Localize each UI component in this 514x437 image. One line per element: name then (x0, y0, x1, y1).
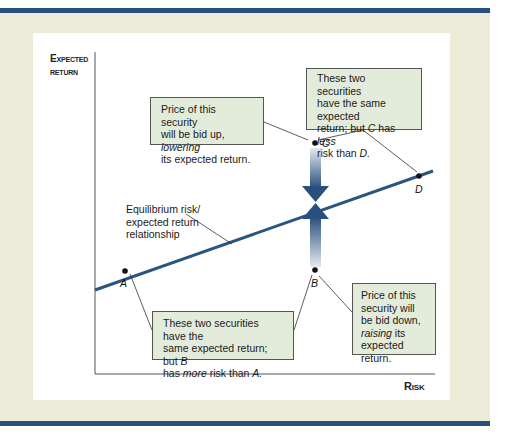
note-text: return; but (317, 122, 368, 134)
note-text: its expected return. (161, 153, 253, 166)
equilibrium-line-label: Equilibrium risk/ expected return relati… (126, 203, 236, 241)
note-text: risk than D. (317, 147, 411, 160)
note-text: same expected return; but (163, 342, 267, 367)
note-security-b-bid-down: Price of this security will be bid down,… (352, 283, 436, 355)
note-text: Price of this security (161, 103, 253, 128)
line-label-2: expected return (126, 216, 236, 229)
note-text: risk than (207, 367, 253, 379)
note-c-vs-d: These two securities have the same expec… (306, 68, 422, 130)
note-text: These two securities (317, 72, 411, 97)
note-emphasis: less (317, 135, 336, 147)
label-d: D (415, 183, 423, 195)
note-emphasis: raising (361, 327, 392, 339)
x-axis-label: Risk (404, 380, 424, 392)
note-text: return; but C has less (317, 122, 411, 147)
label-b: B (311, 277, 318, 289)
note-text: has (375, 122, 395, 134)
y-axis-label: Expected return (50, 52, 88, 78)
label-a: A (120, 277, 127, 289)
note-a-vs-b: These two securities have the same expec… (152, 311, 294, 360)
note-text: risk than (317, 147, 360, 159)
note-text: will be bid up, lowering (161, 128, 253, 153)
y-axis-label-line1: Expected (50, 52, 88, 65)
note-text: security will (361, 302, 427, 315)
note-text: raising its (361, 327, 427, 340)
note-text: have the same expected (317, 97, 411, 122)
note-text: same expected return; but B (163, 342, 283, 367)
note-emphasis: more (183, 367, 207, 379)
note-text: has more risk than A. (163, 367, 283, 380)
note-text: These two securities have the (163, 317, 283, 342)
point-d (416, 173, 422, 179)
y-axis-label-line2: return (50, 65, 88, 78)
point-a (122, 268, 128, 274)
note-security-c-bid-up: Price of this security will be bid up, l… (150, 97, 264, 145)
note-text: will be bid up, (161, 128, 225, 140)
note-emphasis: A. (252, 367, 262, 379)
note-text: expected return. (361, 339, 427, 364)
arrow-up-icon (302, 203, 329, 267)
note-emphasis: D. (360, 147, 371, 159)
note-text: Price of this (361, 289, 427, 302)
line-label-3: relationship (126, 228, 236, 241)
note-emphasis: B (181, 355, 188, 367)
note-text: has (163, 367, 183, 379)
point-b (312, 267, 318, 273)
line-label-1: Equilibrium risk/ (126, 203, 236, 216)
note-emphasis: lowering (161, 141, 200, 153)
note-text: be bid down, (361, 314, 427, 327)
note-text: its (392, 327, 405, 339)
